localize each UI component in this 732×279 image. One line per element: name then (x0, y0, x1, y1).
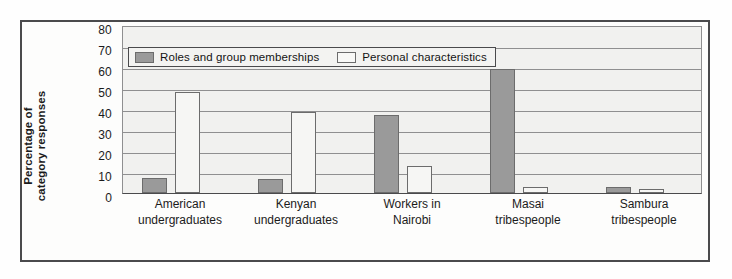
bar-personal[interactable] (175, 92, 200, 193)
x-axis-category-labels: AmericanundergraduatesKenyanundergraduat… (122, 196, 702, 242)
y-axis-title-line2: category responses (35, 91, 49, 201)
x-axis-label: Kenyanundergraduates (238, 196, 354, 228)
x-axis-label-line: Kenyan (238, 196, 354, 212)
y-axis-tick-30: 30 (98, 128, 112, 142)
x-axis-label: Masaitribespeople (470, 196, 586, 228)
bar-personal[interactable] (291, 112, 316, 193)
bar-personal[interactable] (523, 187, 548, 193)
figure: Percentage of category responses 0102030… (0, 0, 732, 279)
x-axis-label: Workers inNairobi (354, 196, 470, 228)
y-axis-tick-80: 80 (98, 23, 112, 37)
bar-personal[interactable] (639, 189, 664, 193)
x-axis-label-line: Masai (470, 196, 586, 212)
x-axis-label-line: undergraduates (238, 212, 354, 228)
y-axis-tick-50: 50 (98, 86, 112, 100)
y-axis-tick-0: 0 (105, 191, 112, 205)
legend-item-roles: Roles and group memberships (135, 51, 319, 63)
y-axis-title-line1: Percentage of (22, 107, 36, 184)
y-axis-tick-40: 40 (98, 107, 112, 121)
bar-group (587, 27, 703, 193)
x-axis-label-line: tribespeople (470, 212, 586, 228)
x-axis-label-line: tribespeople (586, 212, 702, 228)
y-axis-title: Percentage of category responses (15, 58, 55, 234)
x-axis-label-line: Nairobi (354, 212, 470, 228)
x-axis-label: Samburatribespeople (586, 196, 702, 228)
y-axis-tick-70: 70 (98, 44, 112, 58)
x-axis-label-line: Workers in (354, 196, 470, 212)
legend-label-personal: Personal characteristics (362, 51, 486, 63)
bar-roles[interactable] (374, 115, 399, 193)
legend: Roles and group memberships Personal cha… (128, 47, 496, 67)
chart-frame: Percentage of category responses 0102030… (20, 20, 710, 262)
x-axis-label-line: American (122, 196, 238, 212)
bar-roles[interactable] (142, 178, 167, 193)
bar-personal[interactable] (407, 166, 432, 193)
legend-swatch-personal-icon (337, 52, 356, 63)
y-axis-tick-20: 20 (98, 149, 112, 163)
bar-roles[interactable] (490, 69, 515, 193)
x-axis-label-line: undergraduates (122, 212, 238, 228)
legend-label-roles: Roles and group memberships (160, 51, 319, 63)
y-axis-tick-60: 60 (98, 65, 112, 79)
legend-swatch-roles-icon (135, 52, 154, 63)
bar-roles[interactable] (606, 187, 631, 193)
y-axis-tick-10: 10 (98, 170, 112, 184)
y-axis-tick-labels: 01020304050607080 (78, 26, 112, 226)
x-axis-label: Americanundergraduates (122, 196, 238, 228)
x-axis-label-line: Sambura (586, 196, 702, 212)
legend-item-personal: Personal characteristics (337, 51, 486, 63)
bar-roles[interactable] (258, 179, 283, 193)
